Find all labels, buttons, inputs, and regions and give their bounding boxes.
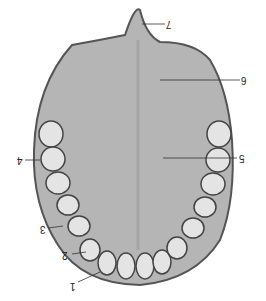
label-5: 5 bbox=[239, 153, 245, 163]
label-6: 6 bbox=[241, 75, 247, 85]
label-1: 1 bbox=[70, 281, 76, 291]
label-4: 4 bbox=[17, 155, 23, 165]
label-7: 7 bbox=[166, 19, 172, 29]
label-3: 3 bbox=[40, 224, 46, 234]
label-2: 2 bbox=[62, 250, 68, 260]
dental-arch-illustration: 7 6 5 4 3 2 1 bbox=[0, 0, 266, 301]
palate-drawing bbox=[0, 0, 266, 301]
